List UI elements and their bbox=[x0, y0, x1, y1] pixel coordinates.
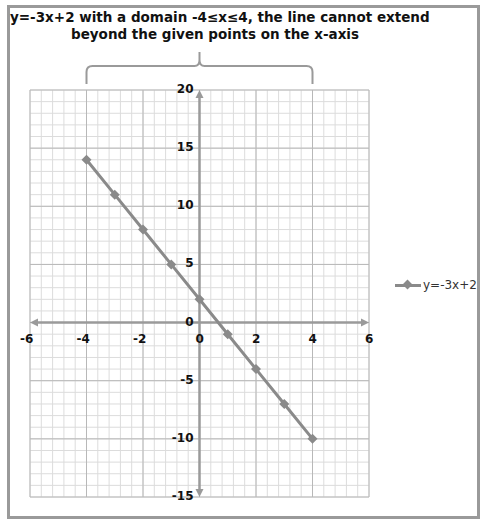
y-tick-label: 15 bbox=[177, 140, 194, 154]
x-tick-label: 4 bbox=[309, 332, 317, 346]
legend-label: y=-3x+2 bbox=[423, 278, 477, 292]
plot-area bbox=[0, 0, 487, 525]
line-diamond-marker-icon bbox=[395, 279, 421, 291]
legend: y=-3x+2 bbox=[395, 278, 477, 292]
y-axis-down-arrow-icon bbox=[196, 489, 204, 497]
y-tick-label: -10 bbox=[172, 431, 194, 445]
x-tick-label: 2 bbox=[252, 332, 260, 346]
x-tick-label: -6 bbox=[20, 332, 33, 346]
brace-annotation bbox=[87, 52, 313, 84]
x-axis-right-arrow-icon bbox=[361, 319, 369, 327]
x-tick-label: 6 bbox=[365, 332, 373, 346]
x-tick-label: 0 bbox=[196, 332, 204, 346]
x-axis-left-arrow-icon bbox=[30, 319, 38, 327]
y-tick-label: 20 bbox=[177, 82, 194, 96]
y-tick-label: 0 bbox=[185, 315, 193, 329]
y-tick-label: -5 bbox=[180, 373, 193, 387]
y-tick-label: -15 bbox=[172, 489, 194, 503]
y-axis-up-arrow-icon bbox=[196, 90, 204, 98]
x-tick-label: -2 bbox=[133, 332, 146, 346]
y-tick-label: 5 bbox=[185, 256, 193, 270]
x-tick-label: -4 bbox=[77, 332, 90, 346]
y-tick-label: 10 bbox=[177, 198, 194, 212]
